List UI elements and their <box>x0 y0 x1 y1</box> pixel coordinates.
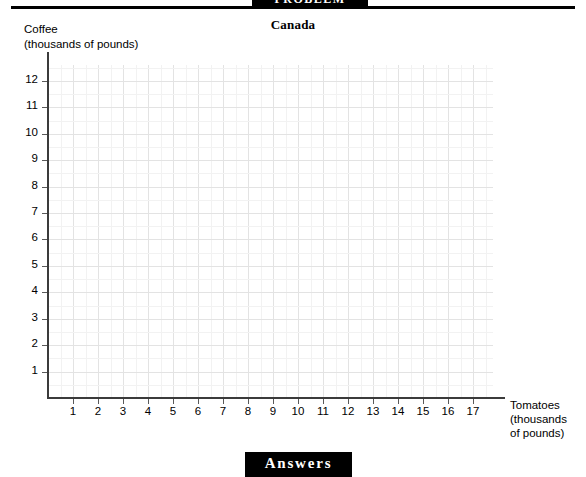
gridline-vertical-minor <box>286 65 287 398</box>
y-axis-tick <box>42 266 47 267</box>
gridline-vertical-major <box>248 65 249 398</box>
gridline-horizontal-major <box>48 81 493 82</box>
gridline-vertical-minor <box>386 65 387 398</box>
y-axis-tick-label: 2 <box>8 337 38 349</box>
y-axis-tick-label: 10 <box>8 126 38 138</box>
x-axis-line <box>47 397 505 399</box>
gridline-horizontal-minor <box>48 358 493 359</box>
y-axis-tick-label: 9 <box>8 152 38 164</box>
gridline-vertical-minor <box>61 65 62 398</box>
x-axis-tick <box>198 399 199 404</box>
y-axis-tick-label: 1 <box>8 364 38 376</box>
gridline-vertical-minor <box>236 65 237 398</box>
gridline-vertical-minor <box>486 65 487 398</box>
x-axis-title-line2: (thousands <box>510 412 567 426</box>
gridline-vertical-major <box>473 65 474 398</box>
gridline-vertical-major <box>98 65 99 398</box>
x-axis-tick <box>398 399 399 404</box>
gridline-vertical-major <box>123 65 124 398</box>
gridline-vertical-major <box>323 65 324 398</box>
x-axis-tick <box>348 399 349 404</box>
gridline-horizontal-major <box>48 372 493 373</box>
x-axis-tick <box>323 399 324 404</box>
x-axis-title-line1: Tomatoes <box>510 398 567 412</box>
x-axis-tick-label: 4 <box>135 405 161 417</box>
y-axis-tick <box>42 372 47 373</box>
gridline-horizontal-minor <box>48 226 493 227</box>
gridline-horizontal-minor <box>48 253 493 254</box>
gridline-vertical-major <box>448 65 449 398</box>
x-axis-tick-label: 15 <box>410 405 436 417</box>
x-axis-tick <box>123 399 124 404</box>
gridline-horizontal-major <box>48 134 493 135</box>
x-axis-tick-label: 16 <box>435 405 461 417</box>
gridline-horizontal-major <box>48 160 493 161</box>
gridline-horizontal-minor <box>48 200 493 201</box>
gridline-vertical-minor <box>361 65 362 398</box>
gridline-horizontal-major <box>48 107 493 108</box>
gridline-vertical-minor <box>436 65 437 398</box>
x-axis-tick <box>423 399 424 404</box>
gridline-vertical-minor <box>161 65 162 398</box>
gridline-vertical-major <box>298 65 299 398</box>
answers-label: Answers <box>245 455 352 472</box>
gridline-horizontal-minor <box>48 121 493 122</box>
gridline-vertical-major <box>273 65 274 398</box>
y-axis-tick-label: 11 <box>8 99 38 111</box>
gridline-vertical-major <box>373 65 374 398</box>
gridline-horizontal-major <box>48 266 493 267</box>
gridline-vertical-minor <box>261 65 262 398</box>
y-axis-tick <box>42 213 47 214</box>
gridline-horizontal-minor <box>48 147 493 148</box>
gridline-vertical-minor <box>336 65 337 398</box>
x-axis-tick <box>273 399 274 404</box>
gridline-horizontal-major <box>48 319 493 320</box>
x-axis-tick <box>98 399 99 404</box>
x-axis-tick-label: 3 <box>110 405 136 417</box>
gridline-horizontal-minor <box>48 68 493 69</box>
x-axis-tick-label: 12 <box>335 405 361 417</box>
x-axis-tick-label: 13 <box>360 405 386 417</box>
x-axis-tick-label: 8 <box>235 405 261 417</box>
x-axis-tick <box>173 399 174 404</box>
gridline-horizontal-major <box>48 292 493 293</box>
x-axis-tick <box>373 399 374 404</box>
y-axis-tick <box>42 345 47 346</box>
y-axis-tick-label: 6 <box>8 231 38 243</box>
y-axis-tick-label: 3 <box>8 311 38 323</box>
gridline-vertical-major <box>173 65 174 398</box>
gridline-vertical-major <box>398 65 399 398</box>
gridline-vertical-minor <box>186 65 187 398</box>
x-axis-tick-label: 1 <box>60 405 86 417</box>
gridline-vertical-major <box>423 65 424 398</box>
x-axis-tick-label: 7 <box>210 405 236 417</box>
gridline-vertical-minor <box>86 65 87 398</box>
x-axis-tick-label: 14 <box>385 405 411 417</box>
gridline-horizontal-minor <box>48 306 493 307</box>
x-axis-tick-label: 9 <box>260 405 286 417</box>
gridline-horizontal-minor <box>48 173 493 174</box>
y-axis-tick <box>42 319 47 320</box>
y-axis-tick <box>42 292 47 293</box>
gridline-vertical-major <box>223 65 224 398</box>
y-axis-tick <box>42 187 47 188</box>
gridline-vertical-minor <box>461 65 462 398</box>
y-axis-tick-label: 7 <box>8 205 38 217</box>
x-axis-tick <box>473 399 474 404</box>
y-axis-tick <box>42 81 47 82</box>
y-axis-tick-label: 5 <box>8 258 38 270</box>
gridline-horizontal-major <box>48 239 493 240</box>
gridline-vertical-major <box>348 65 349 398</box>
gridline-horizontal-minor <box>48 279 493 280</box>
gridline-vertical-minor <box>211 65 212 398</box>
y-axis-line <box>47 52 49 399</box>
x-axis-tick-label: 10 <box>285 405 311 417</box>
x-axis-title: Tomatoes (thousands of pounds) <box>510 398 567 440</box>
answers-banner: Answers <box>245 452 352 477</box>
gridline-vertical-minor <box>136 65 137 398</box>
x-axis-tick-label: 2 <box>85 405 111 417</box>
x-axis-tick-label: 17 <box>460 405 486 417</box>
gridline-horizontal-major <box>48 187 493 188</box>
x-axis-title-line3: of pounds) <box>510 426 567 440</box>
gridline-vertical-major <box>198 65 199 398</box>
